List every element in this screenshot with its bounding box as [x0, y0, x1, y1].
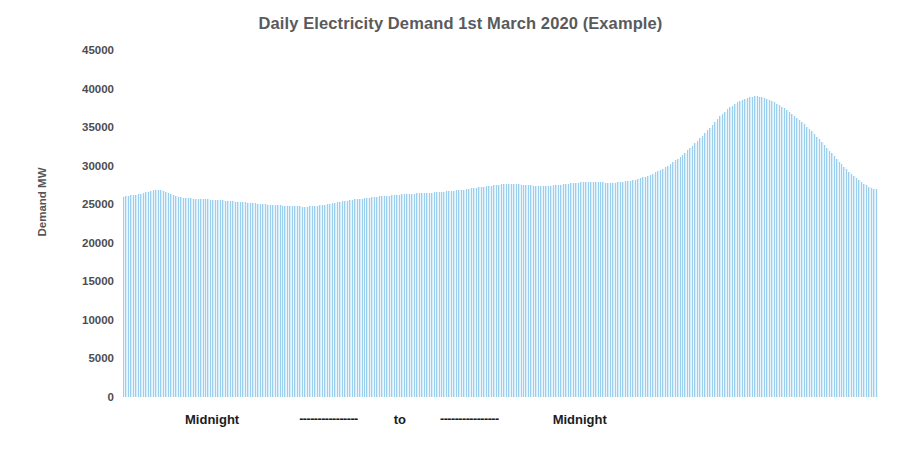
x-axis-middle-label: to: [394, 412, 406, 427]
y-axis-tick-label: 45000: [42, 44, 114, 56]
x-axis-dash-run-right: ----------------: [440, 412, 499, 426]
y-axis-tick-label: 25000: [42, 198, 114, 210]
y-axis-tick-label: 5000: [42, 352, 114, 364]
y-axis-tick-label: 0: [42, 391, 114, 403]
y-axis-tick-label: 20000: [42, 237, 114, 249]
demand-bar-series: [123, 50, 879, 397]
x-axis-caption: Midnight ---------------- to -----------…: [123, 408, 879, 430]
y-axis-tick-label: 40000: [42, 83, 114, 95]
y-axis-tick-label: 10000: [42, 314, 114, 326]
y-axis-tick-label: 30000: [42, 160, 114, 172]
bar: [876, 189, 878, 397]
y-axis-tick-label: 15000: [42, 275, 114, 287]
plot-area: [123, 50, 879, 397]
x-axis-start-label: Midnight: [185, 412, 239, 427]
daily-electricity-demand-chart: Daily Electricity Demand 1st March 2020 …: [0, 0, 921, 449]
x-axis-dash-run-left: ----------------: [299, 412, 358, 426]
x-axis-end-label: Midnight: [553, 412, 607, 427]
y-axis-tick-labels: 4500040000350003000025000200001500010000…: [42, 50, 114, 406]
y-axis-tick-label: 35000: [42, 121, 114, 133]
chart-title: Daily Electricity Demand 1st March 2020 …: [0, 14, 921, 33]
